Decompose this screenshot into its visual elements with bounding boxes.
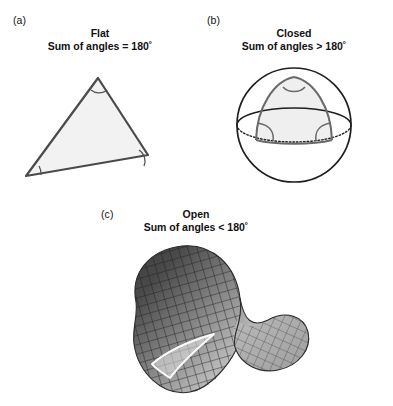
sphere-svg [200,55,390,205]
figure-canvas: (a) Flat Sum of angles = 180˚ (b) Closed… [0,0,393,406]
panel-a-letter: (a) [13,14,26,26]
panel-a-subtitle: Sum of angles = 180˚ [24,40,176,53]
flat-triangle-svg [0,60,190,200]
panel-c-letter: (c) [101,208,114,220]
panel-a-title: Flat [91,27,110,39]
panel-c-title: Open [183,208,210,220]
panel-b-title: Closed [276,27,311,39]
saddle-surface-svg [90,236,320,406]
panel-a-artwork [0,60,190,200]
panel-b-letter: (b) [207,14,220,26]
panel-c-artwork [90,236,320,406]
panel-c-caption: Open Sum of angles < 180˚ [120,208,272,234]
panel-c-subtitle: Sum of angles < 180˚ [120,221,272,234]
panel-b-caption: Closed Sum of angles > 180˚ [218,27,370,53]
panel-a-caption: Flat Sum of angles = 180˚ [24,27,176,53]
flat-triangle-shape [26,78,148,176]
panel-b-subtitle: Sum of angles > 180˚ [218,40,370,53]
panel-b-artwork [200,55,390,205]
